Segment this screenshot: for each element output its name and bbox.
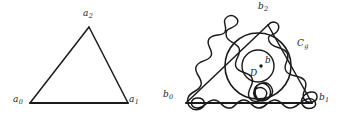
curve-label-Cg: Cg <box>297 39 308 48</box>
triangle-edge-left <box>30 27 89 103</box>
deformed-triangle-group <box>186 16 317 110</box>
vertex-label-a0: a0 <box>13 95 23 104</box>
figure-canvas <box>0 0 339 124</box>
wavy-boundary-curve <box>188 16 317 110</box>
point-label-b: b <box>265 56 271 65</box>
vertex-label-b2: b2 <box>258 2 268 11</box>
outer-circle-Cg <box>225 33 291 99</box>
simple-triangle-group <box>30 27 128 103</box>
disc-label-D: D <box>250 69 257 78</box>
centre-point-b <box>259 64 262 67</box>
vertex-label-b0: b0 <box>163 90 173 99</box>
triangle-edge-right <box>89 27 128 103</box>
figure-container: a0 a1 a2 b0 b1 b2 Cg D b <box>0 0 339 124</box>
vertex-label-a2: a2 <box>83 9 93 18</box>
vertex-label-b1: b1 <box>319 93 329 102</box>
vertex-label-a1: a1 <box>129 95 139 104</box>
